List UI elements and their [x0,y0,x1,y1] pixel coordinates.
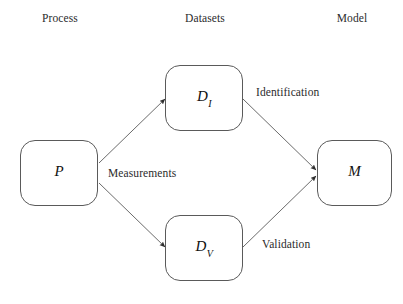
diagram-canvas: Process Datasets Model P DI DV M Measure… [0,0,403,304]
edge-label-validation: Validation [262,238,310,250]
column-header-process: Process [42,12,78,24]
edge-label-measurements: Measurements [108,167,176,179]
edge-label-identification: Identification [256,86,319,98]
node-dataset-identification-label: DI [197,89,211,107]
node-process-label: P [54,164,63,182]
column-header-model: Model [337,12,368,24]
node-process[interactable]: P [20,140,98,206]
edge-process-to-validation [99,183,165,247]
edge-identification-to-model [243,99,316,170]
node-dataset-validation[interactable]: DV [165,215,243,281]
column-header-datasets: Datasets [185,12,225,24]
edge-validation-to-model [243,176,316,247]
edge-process-to-identification [99,99,165,163]
node-dataset-validation-label: DV [196,239,213,257]
node-model[interactable]: M [317,140,392,206]
node-dataset-identification[interactable]: DI [165,65,243,131]
node-model-label: M [348,164,361,182]
